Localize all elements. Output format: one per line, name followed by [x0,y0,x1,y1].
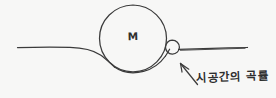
test-body-circle [165,40,179,54]
sketch-canvas: M 시공간의 곡률 [0,0,276,98]
spacetime-curve-left [18,47,115,67]
mass-label: M [118,30,148,43]
curvature-caption: 시공간의 곡률 [196,66,269,85]
